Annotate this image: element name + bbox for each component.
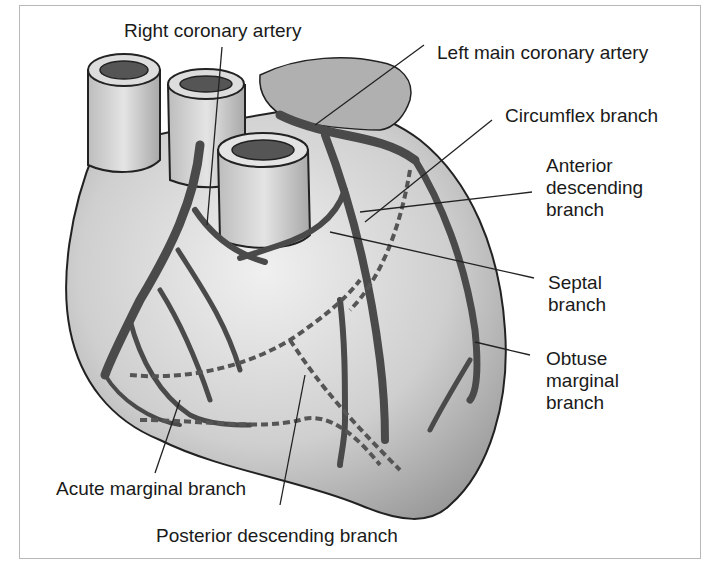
label-anterior-descending-branch: Anterior descending branch — [546, 155, 643, 221]
label-septal-branch: Septal branch — [548, 272, 606, 316]
label-acute-marginal-branch: Acute marginal branch — [56, 478, 246, 500]
label-line: descending — [546, 177, 643, 199]
label-right-coronary-artery: Right coronary artery — [124, 20, 301, 42]
label-line: Septal — [548, 272, 606, 294]
label-line: marginal — [546, 370, 619, 392]
label-line: branch — [546, 392, 619, 414]
label-left-main-coronary-artery: Left main coronary artery — [437, 42, 648, 64]
label-line: branch — [546, 199, 643, 221]
label-posterior-descending-branch: Posterior descending branch — [156, 525, 398, 547]
label-line: Obtuse — [546, 348, 619, 370]
label-circumflex-branch: Circumflex branch — [505, 105, 658, 127]
label-line: branch — [548, 294, 606, 316]
label-line: Anterior — [546, 155, 643, 177]
label-obtuse-marginal-branch: Obtuse marginal branch — [546, 348, 619, 414]
